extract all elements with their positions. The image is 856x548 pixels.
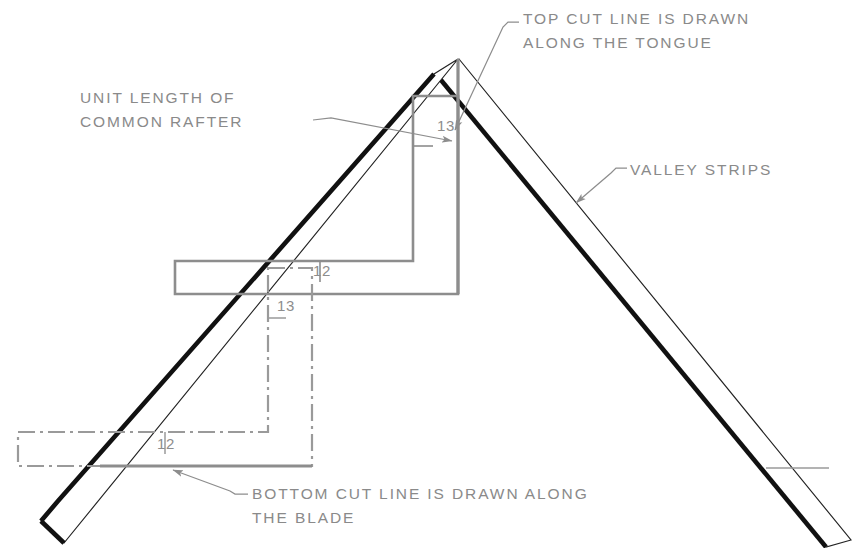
label-valley-strips: VALLEY STRIPS (630, 161, 772, 178)
label-unit-length-2: COMMON RAFTER (80, 113, 243, 130)
leader-lines (173, 22, 627, 494)
dim-lower-blade-12: 12 (157, 435, 175, 452)
left-strip-outline (41, 59, 458, 543)
dim-upper-tongue-13: 13 (437, 117, 455, 134)
left-valley-strip (41, 59, 458, 543)
label-top-cut-line-2: ALONG THE TONGUE (523, 34, 713, 51)
label-bottom-cut-line-1: BOTTOM CUT LINE IS DRAWN ALONG (252, 485, 589, 502)
left-strip-thick-edge (41, 74, 434, 521)
drawing-canvas: TOP CUT LINE IS DRAWN ALONG THE TONGUE U… (0, 0, 856, 548)
leader-valley-strips (576, 168, 627, 203)
dimension-labels: 13 12 13 12 (157, 117, 455, 452)
framing-square-valley-strip-diagram: TOP CUT LINE IS DRAWN ALONG THE TONGUE U… (0, 0, 856, 548)
dim-lower-tongue-13: 13 (277, 297, 295, 314)
label-top-cut-line-1: TOP CUT LINE IS DRAWN (523, 10, 750, 27)
label-unit-length-1: UNIT LENGTH OF (80, 89, 236, 106)
right-valley-strip (436, 59, 851, 547)
right-strip-outline (436, 59, 851, 547)
dim-upper-blade-12: 12 (313, 262, 331, 279)
label-bottom-cut-line-2: THE BLADE (252, 509, 355, 526)
leader-bottom-cut-line (173, 470, 248, 494)
right-strip-thick-edge (436, 74, 826, 547)
